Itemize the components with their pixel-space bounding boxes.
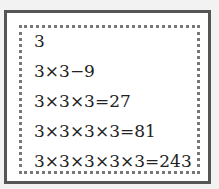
equation-line-1: 3 <box>34 26 192 56</box>
equation-list: 3 3×3−9 3×3×3=27 3×3×3×3=81 3×3×3×3×3=24… <box>34 26 192 176</box>
equation-line-4: 3×3×3×3=81 <box>34 116 192 146</box>
equation-line-2: 3×3−9 <box>34 56 192 86</box>
equation-line-5: 3×3×3×3×3=243 <box>34 146 192 176</box>
equation-line-3: 3×3×3=27 <box>34 86 192 116</box>
